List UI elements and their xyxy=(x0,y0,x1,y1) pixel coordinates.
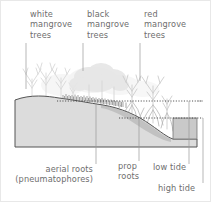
mangrove-diagram: white mangrove trees black mangrove tree… xyxy=(0,0,211,202)
label-low-tide: low tide xyxy=(153,162,186,172)
label-white-mangrove-trees: white mangrove trees xyxy=(30,9,72,40)
label-high-tide: high tide xyxy=(158,183,195,193)
label-prop-roots: prop roots xyxy=(118,161,139,182)
label-aerial-roots: aerial roots (pneumatophores) xyxy=(9,164,93,185)
water-body xyxy=(173,118,197,139)
label-red-mangrove-trees: red mangrove trees xyxy=(144,9,186,40)
label-black-mangrove-trees: black mangrove trees xyxy=(87,9,129,40)
